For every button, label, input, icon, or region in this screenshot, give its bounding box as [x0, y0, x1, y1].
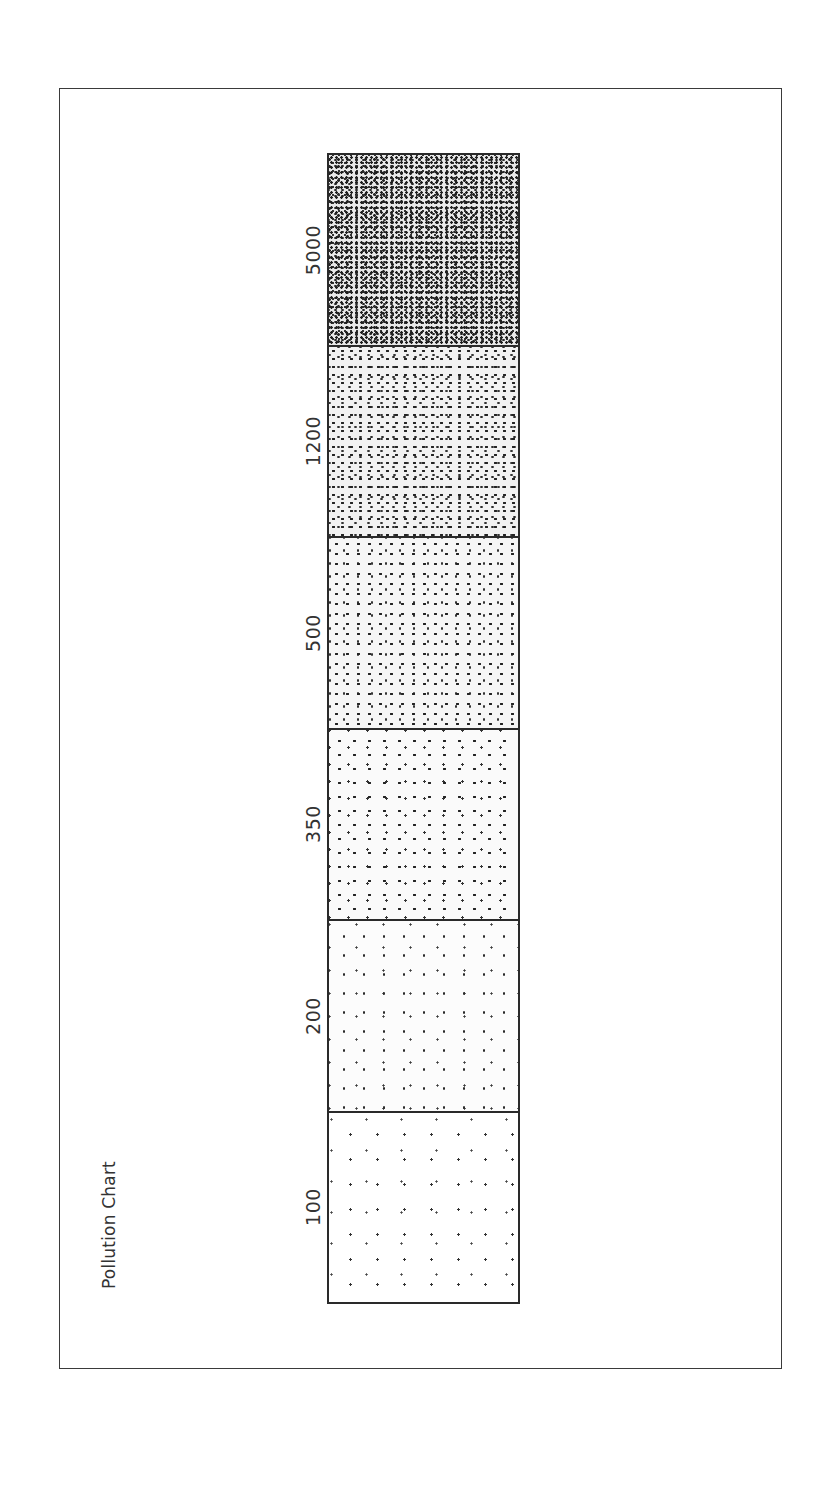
segment-1200: 1200: [329, 345, 518, 537]
segment-label: 200: [302, 997, 324, 1035]
segment-label: 100: [302, 1188, 324, 1226]
segment-label: 5000: [302, 225, 324, 275]
segment-350: 350: [329, 728, 518, 920]
segment-200: 200: [329, 919, 518, 1111]
pollution-scale-bar: 5000 1200 500 350 200 100: [327, 153, 520, 1304]
chart-title: Pollution Chart: [99, 1161, 119, 1289]
segment-label: 500: [302, 614, 324, 652]
segment-500: 500: [329, 536, 518, 728]
segment-5000: 5000: [329, 155, 518, 345]
segment-label: 1200: [302, 416, 324, 466]
segment-label: 350: [302, 805, 324, 843]
segment-100: 100: [329, 1111, 518, 1303]
